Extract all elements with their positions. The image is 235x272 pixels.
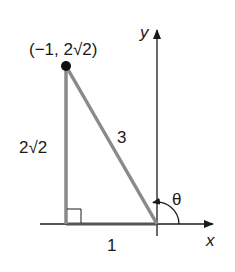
hypotenuse-label: 3 xyxy=(117,128,126,147)
vertical-side-label: 2√2 xyxy=(19,138,47,157)
triangle-hypotenuse xyxy=(66,66,157,224)
point-label: (−1, 2√2) xyxy=(29,40,97,59)
right-angle-marker xyxy=(67,209,81,223)
horizontal-side-label: 1 xyxy=(107,236,116,255)
point-marker xyxy=(61,61,71,71)
x-axis-label: x xyxy=(205,231,215,250)
diagram-canvas: (−1, 2√2) y x 2√2 3 1 θ xyxy=(0,0,235,272)
angle-theta-label: θ xyxy=(172,190,181,209)
y-axis-label: y xyxy=(139,23,150,42)
